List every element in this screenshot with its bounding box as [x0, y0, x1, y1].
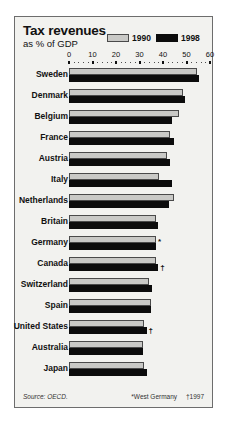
chart-row: Belgium: [15, 109, 214, 130]
axis-dot: [135, 62, 136, 63]
chart-row: Japan: [15, 361, 214, 382]
chart-row: Austria: [15, 151, 214, 172]
bar-group: [69, 131, 210, 145]
axis-dot: [88, 62, 89, 63]
bar-group: †: [69, 257, 210, 271]
bar-1998: [69, 264, 158, 271]
bar-1998: [69, 285, 152, 292]
category-label: Sweden: [36, 69, 68, 79]
bar-1990: [69, 362, 144, 369]
bar-1998: [69, 369, 147, 376]
axis-dot: [196, 62, 197, 63]
axis-dot: [102, 62, 103, 63]
x-axis-tick-30: 30: [135, 50, 143, 59]
axis-dot: [172, 62, 173, 63]
bar-group: [69, 215, 210, 229]
axis-tick-mark-50: [186, 61, 188, 64]
bar-group: [69, 173, 210, 187]
bar-group: [69, 68, 210, 82]
chart-row: Germany*: [15, 235, 214, 256]
bar-1990: [69, 215, 156, 222]
x-axis-line: [69, 62, 210, 65]
axis-dot: [154, 62, 155, 63]
category-label: Austria: [39, 153, 68, 163]
category-label: Australia: [32, 342, 68, 352]
legend-label-1990: 1990: [132, 33, 151, 43]
axis-dot: [130, 62, 131, 63]
bar-1990: [69, 341, 143, 348]
bar-group: [69, 89, 210, 103]
chart-row: Canada†: [15, 256, 214, 277]
bar-footnote-marker: †: [160, 264, 164, 272]
footnote-star: *West Germany: [131, 393, 177, 400]
axis-dot: [158, 62, 159, 63]
category-label: Belgium: [34, 111, 68, 121]
bar-1990: [69, 194, 174, 201]
bar-1990: [69, 152, 167, 159]
axis-dot: [74, 62, 75, 63]
category-label: Netherlands: [19, 195, 68, 205]
category-label: Germany: [31, 237, 68, 247]
bar-group: [69, 299, 210, 313]
category-label: Italy: [51, 174, 68, 184]
axis-dot: [182, 62, 183, 63]
footnote-dagger: †1997: [186, 393, 204, 400]
chart-title: Tax revenues: [23, 23, 106, 38]
bar-footnote-marker: *: [158, 238, 161, 246]
bar-group: *: [69, 236, 210, 250]
chart-row: Denmark: [15, 88, 214, 109]
axis-tick-mark-60: [209, 61, 211, 64]
axis-dot: [97, 62, 98, 63]
legend-item-1990: 1990: [107, 33, 151, 43]
bar-1990: [69, 257, 156, 264]
axis-tick-mark-40: [162, 61, 164, 64]
axis-dot: [205, 62, 206, 63]
bar-1990: [69, 299, 151, 306]
chart-row: Spain: [15, 298, 214, 319]
x-axis-tick-50: 50: [182, 50, 190, 59]
x-axis-tick-60: 60: [206, 50, 214, 59]
category-label: Switzerland: [21, 279, 68, 289]
chart-row: Switzerland: [15, 277, 214, 298]
bar-group: [69, 341, 210, 355]
category-label: Britain: [41, 216, 68, 226]
axis-dot: [149, 62, 150, 63]
chart-plot-area: SwedenDenmarkBelgiumFranceAustriaItalyNe…: [15, 67, 214, 382]
x-axis-tick-0: 0: [67, 50, 71, 59]
bar-1998: [69, 201, 169, 208]
category-label: France: [40, 132, 68, 142]
category-label: Denmark: [32, 90, 68, 100]
bar-1990: [69, 278, 149, 285]
bar-1990: [69, 320, 144, 327]
x-axis-tick-20: 20: [112, 50, 120, 59]
bar-1998: [69, 306, 151, 313]
axis-tick-mark-20: [115, 61, 117, 64]
legend-item-1998: 1998: [156, 33, 200, 43]
chart-row: Italy: [15, 172, 214, 193]
bar-1998: [69, 348, 143, 355]
chart-row: United States†: [15, 319, 214, 340]
chart-row: Britain: [15, 214, 214, 235]
chart-subtitle: as % of GDP: [23, 38, 78, 49]
bar-1990: [69, 131, 170, 138]
axis-tick-mark-10: [92, 61, 94, 64]
axis-dot: [121, 62, 122, 63]
bar-group: [69, 194, 210, 208]
bar-group: [69, 278, 210, 292]
category-label: Canada: [37, 258, 68, 268]
bar-1998: [69, 222, 158, 229]
chart-legend: 1990 1998: [107, 33, 200, 43]
bar-group: [69, 110, 210, 124]
bar-1998: [69, 96, 185, 103]
chart-row: Netherlands: [15, 193, 214, 214]
legend-swatch-1990: [107, 34, 129, 42]
chart-row: Sweden: [15, 67, 214, 88]
bar-1990: [69, 173, 159, 180]
axis-dot: [83, 62, 84, 63]
bar-1990: [69, 68, 197, 75]
bar-1998: [69, 180, 172, 187]
axis-dot: [107, 62, 108, 63]
legend-label-1998: 1998: [181, 33, 200, 43]
bar-1998: [69, 243, 156, 250]
axis-dot: [144, 62, 145, 63]
